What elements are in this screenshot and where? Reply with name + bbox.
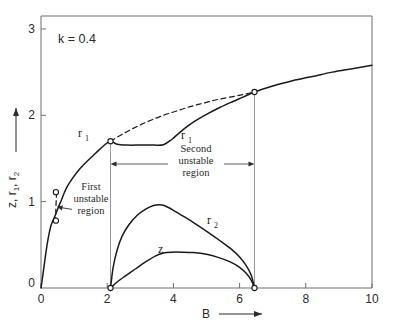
y-tick-label: 1 <box>28 195 35 209</box>
bifurcation-marker <box>252 285 257 290</box>
first-region-line-1: First <box>81 181 100 192</box>
figure-root: 0246810 1230 B z, r1, r2 k = 0.4 First <box>0 0 395 336</box>
first-region-line-3: region <box>78 205 106 216</box>
second-region-line-3: region <box>183 167 211 178</box>
y-title-part: 2 <box>12 171 21 176</box>
y-tick-label: 3 <box>28 22 35 36</box>
y-tick-label: 2 <box>28 108 35 122</box>
second-region-line-2: unstable <box>179 155 214 166</box>
r1-right-subscript: 1 <box>188 136 192 145</box>
r2-label: r <box>207 213 211 227</box>
r2-subscript: 2 <box>214 221 218 230</box>
x-axis-title: B <box>202 307 210 321</box>
x-tick-label: 6 <box>236 292 243 306</box>
r1-left-label: r <box>78 126 82 140</box>
x-tick-label: 10 <box>365 292 379 306</box>
z-label: z <box>158 242 163 256</box>
bifurcation-chart: 0246810 1230 B z, r1, r2 k = 0.4 First <box>0 0 395 336</box>
bifurcation-marker <box>108 139 113 144</box>
bifurcation-marker <box>108 285 113 290</box>
y-title-part: , <box>5 195 19 202</box>
x-tick-label: 0 <box>38 292 45 306</box>
first-region-line-2: unstable <box>74 193 109 204</box>
x-tick-label: 2 <box>104 292 111 306</box>
second-region-line-1: Second <box>181 143 213 154</box>
r1-left-subscript: 1 <box>85 134 89 143</box>
bifurcation-marker <box>53 190 58 195</box>
x-tick-label: 8 <box>302 292 309 306</box>
y-title-part: , <box>5 180 19 187</box>
r1-right-label: r <box>181 128 185 142</box>
y-origin-label: 0 <box>28 276 35 290</box>
second-unstable-region-label: Second unstable region <box>179 143 214 178</box>
bifurcation-marker <box>252 89 257 94</box>
x-tick-label: 4 <box>170 292 177 306</box>
parameter-annotation: k = 0.4 <box>58 32 96 46</box>
bifurcation-marker <box>53 218 58 223</box>
